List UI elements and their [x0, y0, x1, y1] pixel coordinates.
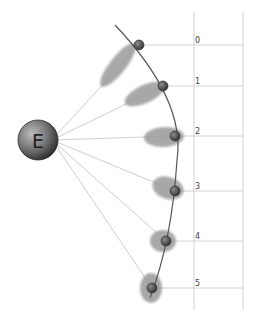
shadow-ellipse-3 [149, 173, 186, 204]
earth: E [18, 120, 58, 160]
guide-grid [139, 12, 243, 310]
position-label-5: 5 [195, 279, 200, 288]
position-label-4: 4 [195, 232, 200, 241]
moon-phase-diagram: 012345 E [0, 0, 257, 321]
moon-dot-0-icon [134, 40, 144, 50]
position-label-3: 3 [195, 182, 200, 191]
moon-dot-4-icon [161, 236, 171, 246]
moon-dot-1-icon [158, 81, 168, 91]
rays [52, 45, 175, 288]
moon-dots [134, 40, 180, 293]
moon-dot-5-icon [147, 283, 157, 293]
ray-4 [52, 140, 166, 241]
position-label-2: 2 [195, 127, 200, 136]
position-labels: 012345 [195, 36, 200, 288]
position-label-0: 0 [195, 36, 200, 45]
position-label-1: 1 [195, 77, 200, 86]
earth-label: E [32, 130, 44, 152]
ray-5 [52, 140, 152, 288]
moon-dot-3-icon [170, 186, 180, 196]
moon-dot-2-icon [170, 131, 180, 141]
shadow-ellipses [95, 39, 187, 303]
